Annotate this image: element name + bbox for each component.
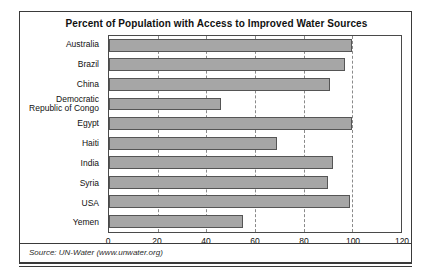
source-divider (20, 243, 411, 244)
x-axis-tick-100: 100 (333, 236, 373, 246)
bar (109, 137, 277, 150)
y-axis-label: Democratic Republic of Congo (29, 95, 99, 114)
x-axis-tick-0: 0 (88, 236, 128, 246)
y-axis-label: Australia (66, 40, 99, 50)
bar (109, 176, 328, 189)
bar (109, 156, 333, 169)
plot-area (108, 35, 402, 233)
chart-title: Percent of Population with Access to Imp… (20, 18, 413, 29)
x-axis-tick-20: 20 (137, 236, 177, 246)
bar (109, 39, 352, 52)
chart-figure: Percent of Population with Access to Imp… (19, 11, 412, 264)
bar-row (109, 114, 401, 134)
y-axis-label: India (81, 159, 99, 169)
x-axis-tick-60: 60 (235, 236, 275, 246)
bar-row (109, 75, 401, 95)
bar-row (109, 212, 401, 232)
y-axis-label: Yemen (73, 218, 99, 228)
bar-row (109, 193, 401, 213)
x-axis-tick-40: 40 (186, 236, 226, 246)
y-axis-label: Syria (80, 179, 99, 189)
bar (109, 58, 345, 71)
bar-row (109, 154, 401, 174)
bar-row (109, 36, 401, 56)
y-axis-label: China (77, 80, 99, 90)
y-axis-label: USA (82, 199, 99, 209)
x-axis-tick-80: 80 (284, 236, 324, 246)
bar (109, 195, 350, 208)
bar-row (109, 95, 401, 115)
bar-row (109, 56, 401, 76)
bar (109, 117, 352, 130)
bar-row (109, 173, 401, 193)
source-note: Source: UN-Water (www.unwater.org) (29, 248, 163, 257)
y-axis-label: Brazil (78, 60, 99, 70)
bar (109, 78, 330, 91)
y-axis-label: Egypt (77, 119, 99, 129)
bar (109, 98, 221, 111)
y-axis-label: Haiti (82, 139, 99, 149)
bar-rows (109, 36, 401, 232)
bar (109, 215, 243, 228)
x-axis-tick-120: 120 (382, 236, 422, 246)
bar-row (109, 134, 401, 154)
